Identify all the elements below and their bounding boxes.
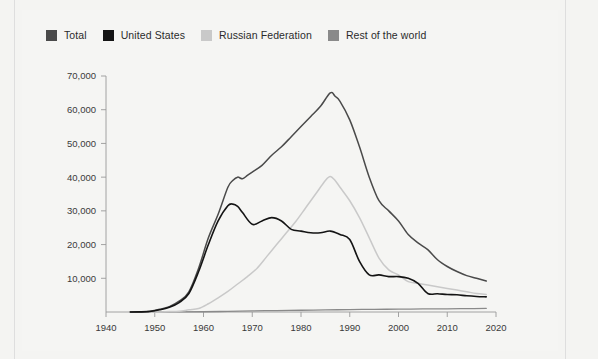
series-line-total (130, 92, 486, 312)
x-axis-tick-label: 1960 (193, 322, 214, 333)
y-axis-tick-label: 10,000 (67, 273, 96, 284)
legend-swatch-united-states (103, 30, 114, 41)
legend-item-russian-federation[interactable]: Russian Federation (201, 30, 312, 41)
y-axis-tick-label: 50,000 (67, 138, 96, 149)
x-axis-tick-label: 1990 (339, 322, 360, 333)
x-axis-tick-label: 2020 (485, 322, 506, 333)
x-axis-tick-label: 2000 (388, 322, 409, 333)
chart-legend: Total United States Russian Federation R… (46, 30, 426, 41)
chart-page: Total United States Russian Federation R… (0, 0, 598, 359)
legend-item-united-states[interactable]: United States (103, 30, 185, 41)
figure-area: Total United States Russian Federation R… (22, 10, 558, 351)
y-axis-tick-label: 40,000 (67, 172, 96, 183)
x-axis-tick-label: 2010 (437, 322, 458, 333)
legend-label-rest-of-the-world: Rest of the world (346, 30, 427, 41)
legend-label-total: Total (64, 30, 87, 41)
y-axis-tick-label: 70,000 (67, 70, 96, 81)
legend-label-united-states: United States (121, 30, 185, 41)
series-line-united-states (130, 204, 486, 312)
legend-item-total[interactable]: Total (46, 30, 87, 41)
y-axis-tick-label: 30,000 (67, 205, 96, 216)
page-rule-right (565, 0, 566, 359)
y-axis-tick-label: 60,000 (67, 104, 96, 115)
x-axis-tick-label: 1940 (95, 322, 116, 333)
x-axis-tick-label: 1980 (290, 322, 311, 333)
x-axis-tick-label: 1950 (144, 322, 165, 333)
legend-swatch-total (46, 30, 57, 41)
legend-swatch-rest-of-the-world (328, 30, 339, 41)
x-axis-tick-label: 1970 (242, 322, 263, 333)
legend-item-rest-of-the-world[interactable]: Rest of the world (328, 30, 427, 41)
y-axis-tick-label: 20,000 (67, 239, 96, 250)
series-line-russian-federation (150, 176, 486, 312)
legend-label-russian-federation: Russian Federation (219, 30, 312, 41)
line-chart: 10,00020,00030,00040,00050,00060,00070,0… (22, 62, 558, 352)
plot-area: 10,00020,00030,00040,00050,00060,00070,0… (22, 62, 558, 352)
legend-swatch-russian-federation (201, 30, 212, 41)
page-rule-left (14, 0, 15, 359)
